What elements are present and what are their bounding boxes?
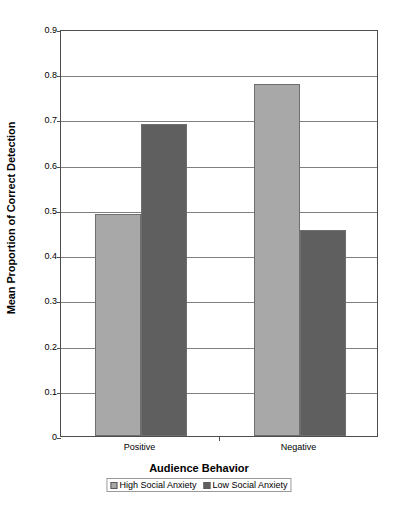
bar-chart: Mean Proportion of Correct Detection 0.9… [0,0,398,516]
y-axis-tickmark [57,438,61,439]
y-axis-tick-label: 0.4 [17,251,57,261]
gridline [61,121,377,122]
y-axis-tick-label: 0.9 [17,25,57,35]
y-axis-tickmark [57,31,61,32]
y-axis-tickmark [57,121,61,122]
gridline [61,76,377,77]
y-axis-tick-label: 0.3 [17,296,57,306]
y-axis-title: Mean Proportion of Correct Detection [0,0,22,436]
x-axis-tick-label: Positive [90,442,190,453]
legend-label: Low Social Anxiety [213,480,288,490]
x-axis-tick-label: Negative [249,442,349,453]
plot-area [60,30,378,437]
legend-swatch-icon [204,482,211,489]
gridline [61,212,377,213]
chart-legend: High Social AnxietyLow Social Anxiety [106,478,291,492]
x-axis-title: Audience Behavior [0,462,398,474]
legend-label: High Social Anxiety [119,480,196,490]
bar [141,124,187,436]
y-axis-tickmark [57,167,61,168]
y-axis-tickmark [57,393,61,394]
y-axis-tick-label: 0.7 [17,115,57,125]
y-axis-tickmark [57,302,61,303]
bar [254,84,300,436]
gridline [61,167,377,168]
y-axis-tickmark [57,212,61,213]
y-axis-tick-label: 0 [17,432,57,442]
bar [300,230,346,436]
y-axis-tickmark [57,76,61,77]
legend-swatch-icon [110,482,117,489]
y-axis-tick-label: 0.2 [17,342,57,352]
bar [95,214,141,436]
y-axis-tick-label: 0.6 [17,161,57,171]
y-axis-tickmark [57,257,61,258]
y-axis-tick-label: 0.5 [17,206,57,216]
legend-entry: High Social Anxiety [110,480,196,490]
y-axis-tick-label: 0.1 [17,387,57,397]
x-axis-tick [219,437,220,441]
y-axis-tick-label: 0.8 [17,70,57,80]
legend-entry: Low Social Anxiety [204,480,288,490]
y-axis-tickmark [57,348,61,349]
